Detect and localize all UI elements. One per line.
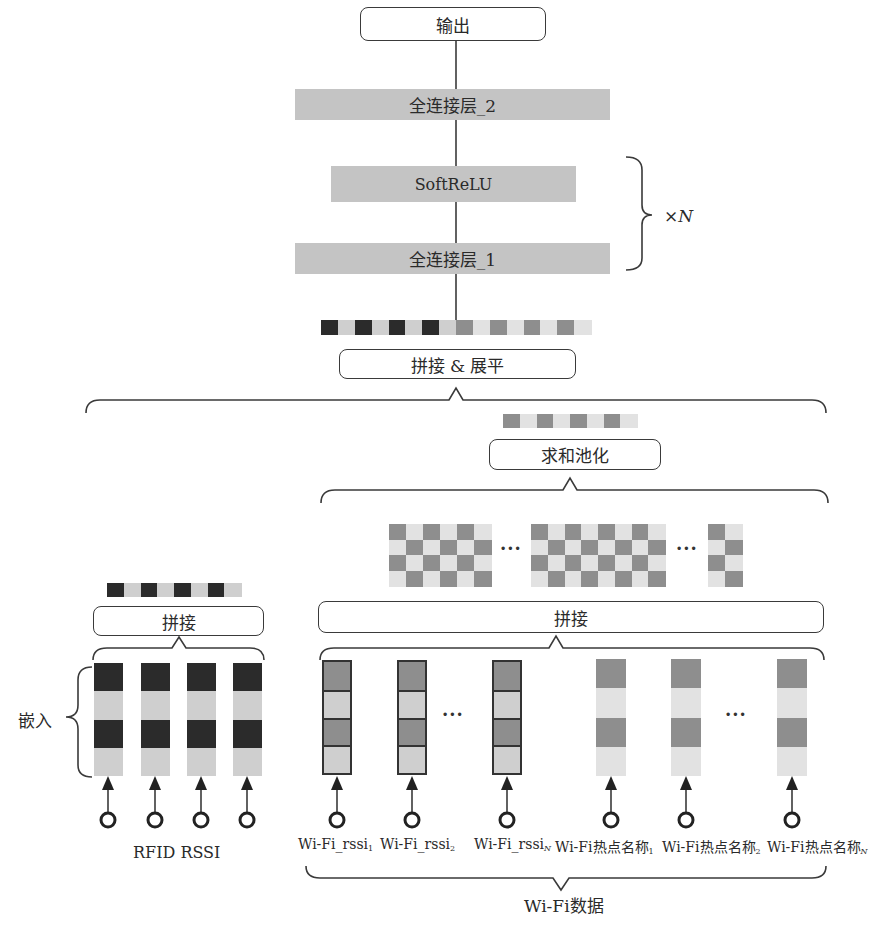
embedding-cell	[494, 690, 520, 718]
wifi-rssi-embedding-column-2	[397, 660, 427, 775]
output-label: 输出	[436, 12, 470, 37]
fc-layer-2-label: 全连接层_2	[409, 92, 496, 117]
matrix-cell	[615, 555, 632, 571]
matrix-cell	[423, 571, 441, 587]
wifi-concat-label: 拼接	[554, 605, 588, 630]
matrix-cell	[725, 540, 743, 556]
matrix-cell	[474, 571, 492, 587]
matrix-cell	[406, 524, 424, 540]
vector-cell	[338, 320, 355, 335]
rfid-input-node-3	[194, 813, 208, 827]
embedding-cell	[399, 690, 425, 718]
wifi-name-2-label: Wi-Fi热点名称2	[662, 836, 761, 856]
matrix-cell	[615, 540, 632, 556]
embedding-cell	[671, 688, 701, 717]
rfid-embedding-column-1	[94, 663, 123, 776]
vector-cell	[321, 320, 338, 335]
sum-pooling-label: 求和池化	[541, 442, 609, 467]
embedding-cell	[596, 747, 626, 776]
wifi-name-node-2	[679, 813, 693, 827]
embedding-cell	[777, 747, 807, 776]
matrix-cell	[548, 540, 565, 556]
matrix-cell	[632, 524, 649, 540]
embedding-cell	[233, 748, 262, 776]
matrix-cell	[615, 571, 632, 587]
matrix-cell	[531, 571, 548, 587]
matrix-cell	[648, 555, 665, 571]
model-architecture-diagram: 输出 全连接层_2 SoftReLU 全连接层_1 ×N 拼接 & 展平 求和池…	[0, 0, 878, 928]
matrix-cell	[389, 524, 407, 540]
vector-cell	[557, 320, 574, 335]
sum-pooled-vector	[503, 414, 637, 428]
matrix-cell	[708, 540, 726, 556]
vector-cell	[208, 583, 225, 597]
embedding-cell	[94, 720, 123, 748]
matrix-cell	[423, 555, 441, 571]
embedding-cell	[671, 718, 701, 747]
matrix-cell	[581, 540, 598, 556]
matrix-cell	[423, 540, 441, 556]
embedding-cell	[141, 691, 170, 719]
vector-cell	[507, 320, 524, 335]
wifi-name-embedding-column-3	[777, 659, 807, 776]
matrix-cell	[648, 571, 665, 587]
vector-cell	[124, 583, 141, 597]
vector-cell	[439, 320, 456, 335]
matrix-cell	[708, 555, 726, 571]
matrix-cell	[581, 524, 598, 540]
rfid-embedding-column-3	[187, 663, 216, 776]
matrix-cell	[457, 571, 475, 587]
wifi-name-1-label: Wi-Fi热点名称1	[555, 836, 654, 856]
embedding-cell	[399, 662, 425, 690]
embedding-cell	[671, 747, 701, 776]
matrix-cell	[548, 571, 565, 587]
embedding-cell	[94, 691, 123, 719]
matrix-cell	[598, 555, 615, 571]
matrix-cell	[725, 555, 743, 571]
matrix-cell	[389, 555, 407, 571]
matrix-cell	[565, 540, 582, 556]
matrix-cell	[725, 571, 743, 587]
matrix-cell	[423, 524, 441, 540]
ellipsis: ···	[676, 538, 698, 559]
embedding-cell	[324, 745, 350, 773]
matrix-cell	[708, 524, 726, 540]
vector-cell	[191, 583, 208, 597]
matrix-cell	[474, 555, 492, 571]
matrix-cell	[389, 571, 407, 587]
embedding-cell	[777, 688, 807, 717]
sum-pooling-node: 求和池化	[489, 439, 661, 470]
wifi-name-node-1	[604, 813, 618, 827]
vector-cell	[537, 414, 554, 428]
embedding-cell	[187, 720, 216, 748]
wifi-rssi-embedding-column-3	[492, 660, 522, 775]
matrix-cell	[457, 540, 475, 556]
embedding-cell	[596, 718, 626, 747]
matrix-cell	[648, 540, 665, 556]
wifi-rssi-node-2	[405, 813, 419, 827]
concat-flatten-node: 拼接 & 展平	[339, 349, 576, 379]
vector-cell	[520, 414, 537, 428]
wifi-embedding-matrix-n	[708, 524, 742, 586]
embedding-cell	[324, 662, 350, 690]
matrix-cell	[581, 571, 598, 587]
vector-cell	[422, 320, 439, 335]
rfid-concat-label: 拼接	[162, 609, 196, 634]
matrix-cell	[632, 555, 649, 571]
connector-lines	[0, 0, 878, 928]
wifi-name-n-label: Wi-Fi热点名称N	[767, 836, 868, 856]
matrix-cell	[474, 524, 492, 540]
wifi-rssi-2-label: Wi-Fi_rssi2	[380, 836, 455, 853]
matrix-cell	[581, 555, 598, 571]
vector-cell	[456, 320, 473, 335]
embedding-cell	[399, 718, 425, 746]
embedding-cell	[777, 718, 807, 747]
wifi-data-group-label: Wi-Fi数据	[524, 892, 604, 917]
embedding-cell	[324, 718, 350, 746]
vector-cell	[574, 320, 591, 335]
rfid-input-node-1	[101, 813, 115, 827]
wifi-embedding-matrix-1	[389, 524, 491, 586]
matrix-cell	[708, 571, 726, 587]
matrix-cell	[598, 524, 615, 540]
embedding-cell	[596, 659, 626, 688]
